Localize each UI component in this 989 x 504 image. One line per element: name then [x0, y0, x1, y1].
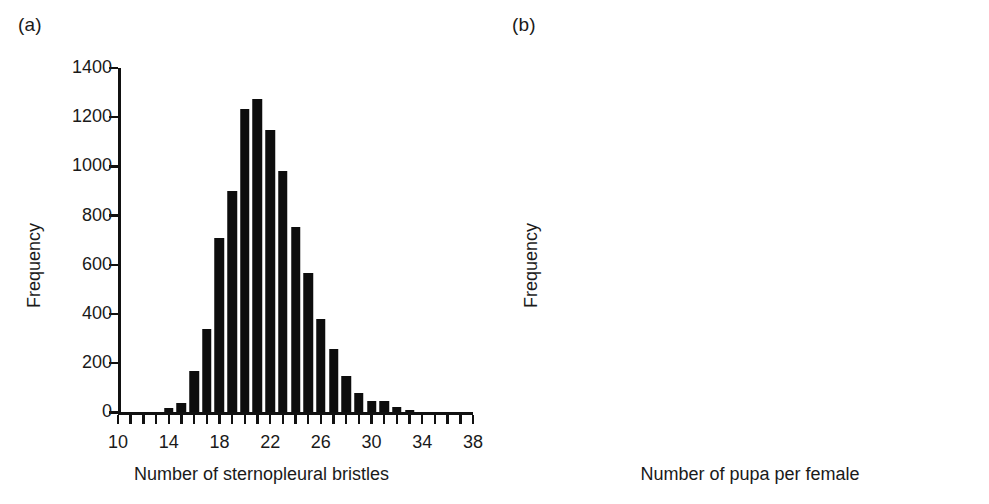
panel-a-x-tick-mark: [294, 415, 296, 424]
histogram-bar: [303, 273, 313, 412]
panel-a-x-tick-mark: [193, 415, 195, 424]
panel-a-x-tick-mark: [459, 415, 461, 424]
panel-a-x-tick-mark: [358, 415, 360, 424]
panel-a-x-tick-mark: [320, 415, 322, 424]
panel-a-x-tick-mark: [269, 415, 271, 424]
panel-a-x-tick-mark: [218, 415, 220, 424]
y-tick-label: 1000: [72, 155, 112, 176]
panel-a-y-axis-line: [118, 68, 121, 415]
histogram-bar: [367, 401, 377, 412]
panel-a-x-tick-mark: [421, 415, 423, 424]
panel-a-x-tick-mark: [370, 415, 372, 424]
panel-a-x-tick-mark: [180, 415, 182, 424]
panel-a-x-tick-mark: [434, 415, 436, 424]
y-tick-label: 1400: [72, 57, 112, 78]
panel-a-x-tick-mark: [446, 415, 448, 424]
panel-b-label: (b): [512, 14, 536, 36]
y-tick-label: 600: [82, 254, 112, 275]
histogram-bar: [189, 371, 199, 413]
panel-a-x-tick-label: 34: [412, 432, 432, 453]
panel-a-label: (a): [18, 14, 42, 36]
histogram-bar: [341, 376, 351, 413]
panel-a-x-tick-mark: [472, 415, 474, 424]
panel-a-x-tick-mark: [206, 415, 208, 424]
panel-a-x-tick-label: 38: [463, 432, 483, 453]
histogram-bar: [265, 130, 275, 413]
panel-b-x-axis-title: Number of pupa per female: [503, 464, 989, 485]
panel-a-x-axis-title: Number of sternopleural bristles: [14, 464, 509, 485]
y-tick-label: 200: [82, 352, 112, 373]
histogram-bar: [380, 401, 390, 413]
panel-a-x-tick-label: 18: [209, 432, 229, 453]
panel-a-x-tick-label: 14: [159, 432, 179, 453]
panel-a-x-tick-mark: [129, 415, 131, 424]
histogram-bar: [278, 171, 288, 412]
histogram-bar: [405, 410, 415, 412]
panel-a-x-tick-mark: [256, 415, 258, 424]
panel-a-x-tick-mark: [231, 415, 233, 424]
y-tick-label: 400: [82, 303, 112, 324]
histogram-bar: [164, 408, 174, 413]
histogram-bar: [227, 191, 237, 412]
panel-a-x-tick-label: 26: [311, 432, 331, 453]
histogram-bar: [240, 109, 250, 413]
histogram-bar: [202, 329, 212, 413]
panel-a-x-tick-mark: [408, 415, 410, 424]
panel-a-plot-area: 0200400600800100012001400101418222630343…: [118, 68, 473, 415]
histogram-bar: [354, 393, 364, 413]
panel-a-x-tick-mark: [332, 415, 334, 424]
panel-a-x-tick-label: 30: [362, 432, 382, 453]
panel-a: (a) Frequency Number of sternopleural br…: [0, 0, 495, 504]
panel-a-x-tick-mark: [168, 415, 170, 424]
panel-a-x-tick-mark: [345, 415, 347, 424]
histogram-bar: [291, 227, 301, 413]
panel-a-x-tick-mark: [155, 415, 157, 424]
y-tick-label: 800: [82, 205, 112, 226]
histogram-bar: [329, 349, 339, 412]
panel-a-x-tick-mark: [282, 415, 284, 424]
histogram-bar: [253, 99, 263, 413]
panel-b: (b) Frequency Number of pupa per female …: [495, 0, 989, 504]
panel-a-x-tick-mark: [142, 415, 144, 424]
figure-two-histograms: (a) Frequency Number of sternopleural br…: [0, 0, 989, 504]
histogram-bar: [392, 407, 402, 412]
panel-a-y-axis-title: Frequency: [24, 223, 45, 308]
histogram-bar: [215, 238, 225, 413]
panel-a-x-tick-mark: [383, 415, 385, 424]
panel-b-y-axis-title: Frequency: [521, 223, 542, 308]
panel-a-x-tick-label: 10: [108, 432, 128, 453]
panel-a-x-tick-mark: [307, 415, 309, 424]
y-tick-label: 0: [102, 401, 112, 422]
y-tick-label: 1200: [72, 106, 112, 127]
histogram-bar: [316, 319, 326, 412]
panel-a-x-tick-mark: [244, 415, 246, 424]
panel-a-x-tick-mark: [117, 415, 119, 424]
panel-a-x-tick-label: 22: [260, 432, 280, 453]
histogram-bar: [177, 403, 187, 412]
panel-a-x-tick-mark: [396, 415, 398, 424]
